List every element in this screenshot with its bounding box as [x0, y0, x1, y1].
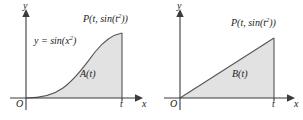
curve-equation-suffix: )	[73, 35, 76, 46]
point-p-label-prefix: P(t, sin(t	[231, 17, 266, 28]
curve-equation-prefix: y = sin(x	[34, 35, 70, 46]
panel-area-b: y x O t P(t, sin(t2)) B(t)	[152, 0, 303, 120]
area-label-b-prefix: B(t	[232, 68, 244, 79]
point-p-label: P(t, sin(t2))	[231, 18, 276, 28]
curve-equation-label: y = sin(x2)	[34, 36, 76, 46]
tick-label-t: t	[272, 99, 275, 109]
area-label-a: A(t)	[80, 69, 96, 79]
x-axis-label: x	[294, 99, 298, 109]
point-p-label-prefix: P(t, sin(t	[83, 13, 118, 24]
area-label-b: B(t)	[232, 69, 248, 79]
area-label-a-prefix: A(t	[80, 68, 92, 79]
area-label-a-suffix: )	[92, 68, 95, 79]
tick-label-t: t	[120, 99, 123, 109]
panel-area-a: y x O t P(t, sin(t2)) y = sin(x2) A(t)	[0, 0, 151, 120]
point-p-label: P(t, sin(t2))	[83, 14, 128, 24]
x-axis-label: x	[142, 99, 146, 109]
figure-root: y x O t P(t, sin(t2)) y = sin(x2) A(t)	[0, 0, 303, 120]
point-p-label-suffix: ))	[121, 13, 128, 24]
area-label-b-suffix: )	[244, 68, 247, 79]
origin-label: O	[16, 99, 23, 109]
y-axis-label: y	[23, 1, 27, 11]
origin-label: O	[170, 99, 177, 109]
point-p-label-suffix: ))	[269, 17, 276, 28]
y-axis-label: y	[177, 1, 181, 11]
